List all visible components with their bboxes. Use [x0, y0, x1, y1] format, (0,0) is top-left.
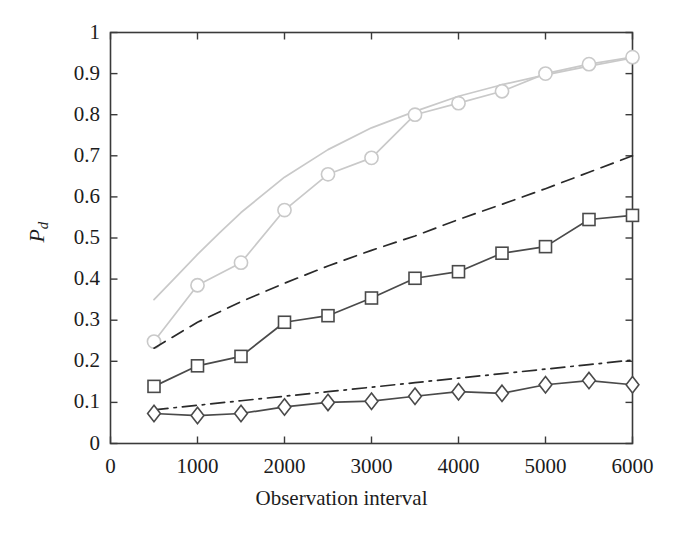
marker-diamond	[583, 372, 596, 388]
marker-circle	[365, 151, 378, 164]
marker-square	[409, 272, 421, 284]
marker-diamond	[148, 405, 161, 421]
marker-diamond	[409, 388, 422, 404]
series-line-light-circle-markers	[154, 57, 633, 341]
y-tick-label: 0.2	[30, 350, 100, 371]
marker-square	[279, 316, 291, 328]
marker-square	[148, 380, 160, 392]
y-tick-label: 0.9	[30, 63, 100, 84]
marker-diamond	[322, 394, 335, 410]
series-line-dark-square-markers	[154, 215, 633, 386]
marker-circle	[539, 67, 552, 80]
marker-diamond	[539, 377, 552, 393]
marker-square	[366, 292, 378, 304]
series-line-dark-diamond-markers	[154, 381, 633, 416]
marker-circle	[408, 108, 421, 121]
y-tick-label: 0	[30, 433, 100, 454]
series-line-dark-dashed-bound	[154, 156, 633, 348]
series-line-light-solid-upper-bound	[154, 58, 633, 300]
marker-circle	[495, 85, 508, 98]
y-axis-title: Pd	[24, 202, 52, 262]
y-tick-label: 0.1	[30, 391, 100, 412]
chart-figure: 00.10.20.30.40.50.60.70.80.91 0100020003…	[0, 0, 683, 533]
data-series-group	[147, 51, 639, 424]
x-tick-label: 6000	[573, 456, 683, 477]
y-tick-label: 0.7	[30, 145, 100, 166]
marker-circle	[234, 256, 247, 269]
chart-plot-area	[0, 0, 683, 533]
y-tick-label: 0.8	[30, 104, 100, 125]
y-tick-label: 0.4	[30, 268, 100, 289]
marker-square	[192, 360, 204, 372]
marker-diamond	[452, 384, 465, 400]
marker-circle	[626, 51, 639, 64]
series-line-dark-dashdot-bound	[154, 360, 633, 410]
y-tick-label: 1	[30, 22, 100, 43]
marker-diamond	[365, 393, 378, 409]
marker-circle	[278, 203, 291, 216]
axes-frame	[111, 33, 633, 444]
marker-square	[496, 247, 508, 259]
marker-square	[540, 241, 552, 253]
marker-square	[235, 350, 247, 362]
y-tick-label: 0.3	[30, 309, 100, 330]
x-axis-title: Observation interval	[0, 486, 683, 511]
marker-square	[627, 209, 639, 221]
axis-ticks	[111, 33, 633, 444]
y-axis-title-base: P	[24, 229, 49, 242]
marker-circle	[321, 168, 334, 181]
marker-square	[583, 214, 595, 226]
marker-diamond	[235, 405, 248, 421]
marker-diamond	[496, 385, 509, 401]
marker-square	[322, 310, 334, 322]
marker-diamond	[278, 399, 291, 415]
marker-circle	[191, 279, 204, 292]
marker-diamond	[626, 377, 639, 393]
y-axis-title-subscript: d	[35, 222, 51, 230]
marker-circle	[452, 97, 465, 110]
marker-circle	[582, 58, 595, 71]
marker-diamond	[191, 407, 204, 423]
marker-square	[453, 266, 465, 278]
